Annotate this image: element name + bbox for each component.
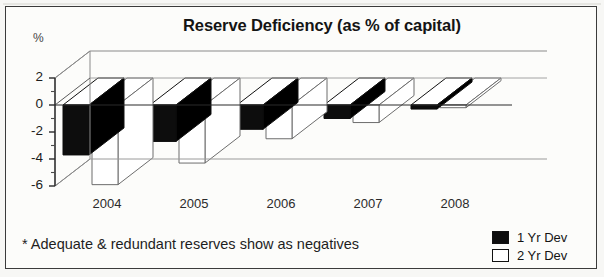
y-tick-label: -4 bbox=[15, 150, 43, 165]
y-tick-label: 2 bbox=[15, 69, 43, 84]
x-tick-label: 2004 bbox=[77, 196, 137, 211]
legend-label-2-yr-dev: 2 Yr Dev bbox=[517, 248, 567, 263]
y-tick-label: -6 bbox=[15, 177, 43, 192]
legend-swatch-1-yr-dev bbox=[492, 231, 509, 244]
x-tick-label: 2008 bbox=[425, 196, 485, 211]
chart-legend: 1 Yr Dev 2 Yr Dev bbox=[492, 228, 567, 264]
chart-title: Reserve Deficiency (as % of capital) bbox=[0, 16, 604, 35]
x-tick-label: 2007 bbox=[338, 196, 398, 211]
x-tick-label: 2006 bbox=[251, 196, 311, 211]
legend-swatch-2-yr-dev bbox=[492, 249, 509, 262]
y-tick-label: 0 bbox=[15, 96, 43, 111]
y-tick-label: -2 bbox=[15, 123, 43, 138]
legend-item: 2 Yr Dev bbox=[492, 246, 567, 264]
legend-label-1-yr-dev: 1 Yr Dev bbox=[517, 230, 567, 245]
x-tick-label: 2005 bbox=[164, 196, 224, 211]
chart-footnote: * Adequate & redundant reserves show as … bbox=[22, 236, 359, 252]
legend-item: 1 Yr Dev bbox=[492, 228, 567, 246]
chart-page: Reserve Deficiency (as % of capital) % 2… bbox=[0, 0, 604, 277]
y-axis-caption: % bbox=[33, 31, 44, 45]
